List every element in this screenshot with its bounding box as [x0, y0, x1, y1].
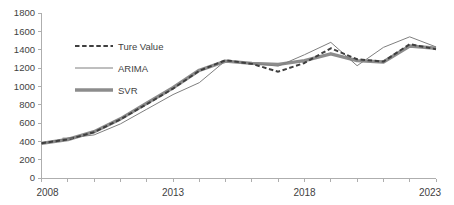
x-axis-ticks	[42, 179, 437, 183]
x-tick-label: 2018	[293, 187, 316, 198]
y-tick-label: 1200	[14, 62, 35, 73]
y-tick-label: 600	[19, 117, 35, 128]
y-tick-label: 400	[19, 136, 35, 147]
y-tick-label: 0	[30, 172, 35, 183]
x-tick-label: 2023	[419, 187, 442, 198]
legend-label-true-value: Ture Value	[118, 41, 163, 52]
y-tick-label: 1400	[14, 44, 35, 55]
x-tick-label: 2008	[36, 187, 59, 198]
chart-canvas: 020040060080010001200140016001800 200820…	[0, 0, 454, 205]
y-axis-ticks	[38, 13, 42, 178]
y-axis-group: 020040060080010001200140016001800	[14, 7, 42, 183]
y-tick-label: 1600	[14, 26, 35, 37]
x-tick-label: 2013	[162, 187, 185, 198]
legend-label-svr: SVR	[118, 85, 138, 96]
legend-label-arima: ARIMA	[118, 63, 149, 74]
chart-legend: Ture ValueARIMASVR	[75, 41, 163, 96]
x-axis-tick-labels: 2008201320182023	[36, 187, 441, 198]
y-tick-label: 800	[19, 99, 35, 110]
line-chart-forecast-comparison: 020040060080010001200140016001800 200820…	[0, 0, 454, 205]
y-tick-label: 1800	[14, 7, 35, 18]
y-tick-label: 200	[19, 154, 35, 165]
x-axis-group: 2008201320182023	[36, 179, 441, 199]
y-tick-label: 1000	[14, 81, 35, 92]
y-axis-tick-labels: 020040060080010001200140016001800	[14, 7, 35, 183]
